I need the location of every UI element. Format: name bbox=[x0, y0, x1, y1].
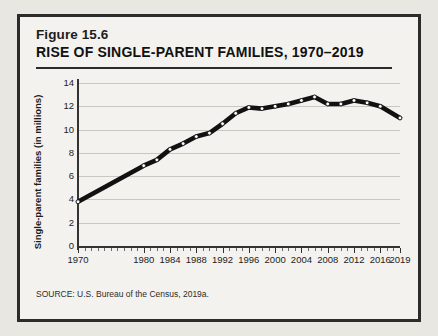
y-tick-label: 4 bbox=[52, 193, 74, 204]
data-point-marker bbox=[194, 135, 198, 139]
x-minor-tick bbox=[163, 248, 164, 251]
x-minor-tick bbox=[315, 248, 316, 251]
x-minor-tick bbox=[361, 248, 362, 251]
x-minor-tick bbox=[262, 248, 263, 251]
x-minor-tick bbox=[131, 248, 132, 251]
data-point-marker bbox=[326, 102, 330, 106]
data-point-marker bbox=[260, 107, 264, 111]
x-tick-label: 1980 bbox=[133, 254, 154, 265]
data-point-marker bbox=[155, 158, 159, 162]
data-point-marker bbox=[286, 102, 290, 106]
y-tick-label: 6 bbox=[52, 170, 74, 181]
title-divider bbox=[36, 67, 392, 69]
x-major-tick bbox=[400, 248, 401, 253]
x-major-tick bbox=[78, 248, 79, 253]
x-minor-tick bbox=[117, 248, 118, 251]
x-tick-label: 2008 bbox=[317, 254, 338, 265]
x-minor-tick bbox=[308, 248, 309, 251]
figure-title: RISE OF SINGLE-PARENT FAMILIES, 1970–201… bbox=[36, 44, 364, 60]
x-minor-tick bbox=[341, 248, 342, 251]
data-point-marker bbox=[365, 101, 369, 105]
x-tick-label: 2000 bbox=[265, 254, 286, 265]
x-minor-tick bbox=[288, 248, 289, 251]
y-tick-label: 8 bbox=[52, 147, 74, 158]
x-minor-tick bbox=[124, 248, 125, 251]
x-tick-label: 2012 bbox=[343, 254, 364, 265]
x-major-tick bbox=[196, 248, 197, 253]
x-minor-tick bbox=[282, 248, 283, 251]
figure-card: Figure 15.6 RISE OF SINGLE-PARENT FAMILI… bbox=[17, 14, 421, 322]
data-point-marker bbox=[221, 122, 225, 126]
data-point-marker bbox=[313, 95, 317, 99]
x-minor-tick bbox=[387, 248, 388, 251]
y-tick-label: 10 bbox=[52, 124, 74, 135]
x-minor-tick bbox=[150, 248, 151, 251]
x-tick-label: 1992 bbox=[212, 254, 233, 265]
x-minor-tick bbox=[321, 248, 322, 251]
x-major-tick bbox=[223, 248, 224, 253]
x-tick-label: 1970 bbox=[67, 254, 88, 265]
source-note: SOURCE: U.S. Bureau of the Census, 2019a… bbox=[36, 289, 209, 299]
y-tick-label: 14 bbox=[52, 77, 74, 88]
x-tick-label: 1984 bbox=[159, 254, 180, 265]
y-tick-label: 12 bbox=[52, 100, 74, 111]
x-major-tick bbox=[380, 248, 381, 253]
x-minor-tick bbox=[295, 248, 296, 251]
x-minor-tick bbox=[177, 248, 178, 251]
x-minor-tick bbox=[203, 248, 204, 251]
x-minor-tick bbox=[137, 248, 138, 251]
x-major-tick bbox=[301, 248, 302, 253]
x-tick-label: 2019 bbox=[389, 254, 410, 265]
data-point-marker bbox=[168, 147, 172, 151]
data-point-marker bbox=[339, 102, 343, 106]
x-minor-tick bbox=[91, 248, 92, 251]
x-minor-tick bbox=[374, 248, 375, 251]
figure-number: Figure 15.6 bbox=[36, 27, 108, 42]
x-minor-tick bbox=[190, 248, 191, 251]
data-point-marker bbox=[234, 111, 238, 115]
x-major-tick bbox=[275, 248, 276, 253]
data-series-line bbox=[78, 83, 400, 246]
x-major-tick bbox=[170, 248, 171, 253]
x-minor-tick bbox=[209, 248, 210, 251]
x-minor-tick bbox=[367, 248, 368, 251]
x-minor-tick bbox=[98, 248, 99, 251]
data-point-marker bbox=[142, 164, 146, 168]
data-point-marker bbox=[181, 142, 185, 146]
x-tick-label: 1988 bbox=[186, 254, 207, 265]
x-minor-tick bbox=[85, 248, 86, 251]
x-tick-label: 1996 bbox=[238, 254, 259, 265]
x-major-tick bbox=[328, 248, 329, 253]
x-minor-tick bbox=[104, 248, 105, 251]
data-point-marker bbox=[398, 116, 402, 120]
data-point-marker bbox=[247, 106, 251, 110]
x-minor-tick bbox=[111, 248, 112, 251]
x-minor-tick bbox=[347, 248, 348, 251]
x-minor-tick bbox=[216, 248, 217, 251]
x-tick-label: 2016 bbox=[370, 254, 391, 265]
x-major-tick bbox=[354, 248, 355, 253]
x-minor-tick bbox=[255, 248, 256, 251]
x-minor-tick bbox=[236, 248, 237, 251]
data-point-marker bbox=[273, 104, 277, 108]
data-point-marker bbox=[352, 99, 356, 103]
x-minor-tick bbox=[334, 248, 335, 251]
x-minor-tick bbox=[229, 248, 230, 251]
x-tick-label: 2004 bbox=[291, 254, 312, 265]
x-minor-tick bbox=[393, 248, 394, 251]
x-axis-line bbox=[78, 246, 400, 248]
x-minor-tick bbox=[183, 248, 184, 251]
x-major-tick bbox=[249, 248, 250, 253]
data-line bbox=[78, 97, 400, 202]
data-point-marker bbox=[208, 131, 212, 135]
data-point-marker bbox=[378, 104, 382, 108]
chart-container: Single-parent families (in millions) 024… bbox=[36, 79, 408, 279]
data-point-marker bbox=[76, 200, 80, 204]
x-major-tick bbox=[144, 248, 145, 253]
y-axis-title: Single-parent families (in millions) bbox=[32, 79, 44, 265]
data-point-marker bbox=[300, 99, 304, 103]
x-minor-tick bbox=[157, 248, 158, 251]
x-minor-tick bbox=[269, 248, 270, 251]
y-tick-label: 2 bbox=[52, 217, 74, 228]
x-minor-tick bbox=[242, 248, 243, 251]
